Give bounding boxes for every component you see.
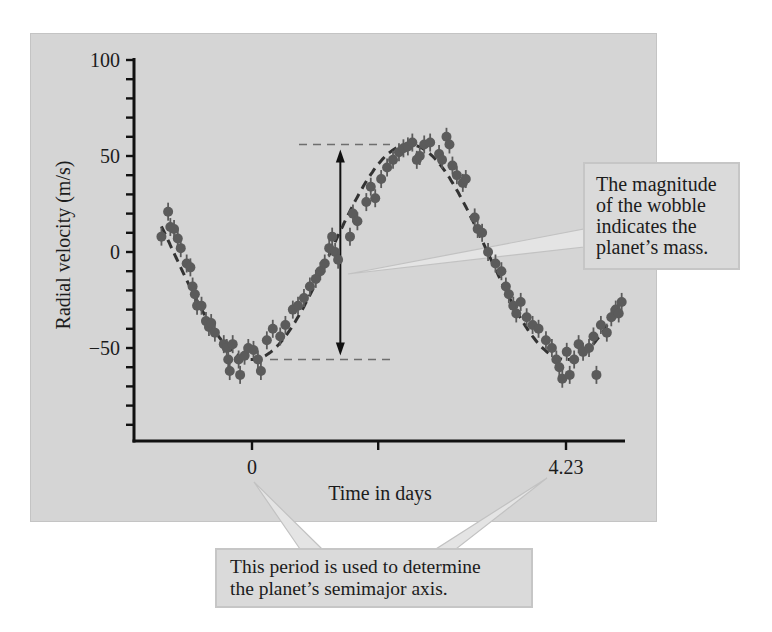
data-marker [516, 297, 526, 307]
x-tick-label: 4.23 [549, 456, 584, 478]
data-marker [483, 247, 493, 257]
data-marker [588, 331, 598, 341]
data-marker [235, 370, 245, 380]
data-marker [256, 366, 266, 376]
callout-mass-line: planet’s mass. [596, 237, 738, 258]
data-marker [352, 216, 362, 226]
data-point [588, 327, 598, 345]
data-point [425, 134, 435, 152]
data-marker [361, 197, 371, 207]
data-marker [248, 345, 258, 355]
axes [126, 58, 625, 450]
data-marker [407, 138, 417, 148]
data-marker [547, 343, 557, 353]
y-tick-label: 50 [100, 145, 120, 167]
callout-period-line: This period is used to determine [230, 556, 531, 578]
data-point [376, 170, 386, 188]
data-marker [461, 174, 471, 184]
arrow-up-icon [336, 149, 345, 162]
data-points [156, 128, 626, 388]
data-marker [415, 151, 425, 161]
arrow-down-icon [336, 343, 345, 356]
data-marker [197, 301, 207, 311]
data-marker [437, 155, 447, 165]
callout-period-line: the planet’s semimajor axis. [230, 578, 531, 600]
y-tick-label: 0 [110, 241, 120, 263]
data-marker [602, 328, 612, 338]
data-marker [299, 293, 309, 303]
data-point [262, 331, 272, 349]
y-axis-title: Radial velocity (m/s) [52, 161, 75, 330]
data-marker [225, 366, 235, 376]
period-pointer-start [254, 482, 322, 549]
data-marker [268, 324, 278, 334]
data-marker [477, 228, 487, 238]
data-point [345, 228, 355, 246]
data-point [366, 178, 376, 196]
data-point [591, 366, 601, 384]
data-marker [320, 259, 330, 269]
data-marker [210, 328, 220, 338]
data-marker [511, 308, 521, 318]
data-marker [425, 138, 435, 148]
x-tick-label: 0 [247, 456, 257, 478]
y-tick-label: 100 [90, 49, 120, 71]
period-pointer-end [436, 478, 547, 549]
callout-mass-line: The magnitude [596, 174, 738, 195]
data-marker [262, 335, 272, 345]
data-marker [447, 161, 457, 171]
data-marker [617, 297, 627, 307]
data-marker [591, 370, 601, 380]
data-point [163, 203, 173, 221]
callout-mass-line: indicates the [596, 216, 738, 237]
fit-curve [161, 145, 621, 360]
radial-velocity-chart: Radial velocity (m/s) Time in days 10050… [0, 0, 772, 632]
mass-pointer [348, 229, 584, 274]
data-point [235, 366, 245, 384]
data-marker [376, 174, 386, 184]
data-marker [176, 243, 186, 253]
callout-mass: The magnitude of the wobble indicates th… [583, 162, 740, 270]
x-axis-title: Time in days [328, 482, 432, 505]
data-marker [156, 232, 166, 242]
data-point [223, 351, 233, 369]
sinusoid-fit-line [161, 145, 621, 360]
data-marker [275, 331, 285, 341]
data-marker [190, 289, 200, 299]
data-point [225, 362, 235, 380]
data-marker [444, 139, 454, 149]
callout-mass-line: of the wobble [596, 195, 738, 216]
data-marker [534, 324, 544, 334]
data-marker [163, 207, 173, 217]
data-marker [370, 193, 380, 203]
data-point [370, 189, 380, 207]
data-marker [496, 266, 506, 276]
data-marker [280, 320, 290, 330]
data-marker [569, 355, 579, 365]
data-marker [562, 347, 572, 357]
data-marker [565, 370, 575, 380]
data-point [361, 193, 371, 211]
data-marker [345, 232, 355, 242]
data-marker [228, 339, 238, 349]
y-tick-label: −50 [89, 337, 120, 359]
data-marker [366, 182, 376, 192]
data-marker [333, 255, 343, 265]
data-marker [327, 232, 337, 242]
data-marker [584, 343, 594, 353]
data-marker [223, 355, 233, 365]
data-marker [504, 289, 514, 299]
callout-period: This period is used to determine the pla… [215, 548, 533, 608]
data-marker [185, 262, 195, 272]
